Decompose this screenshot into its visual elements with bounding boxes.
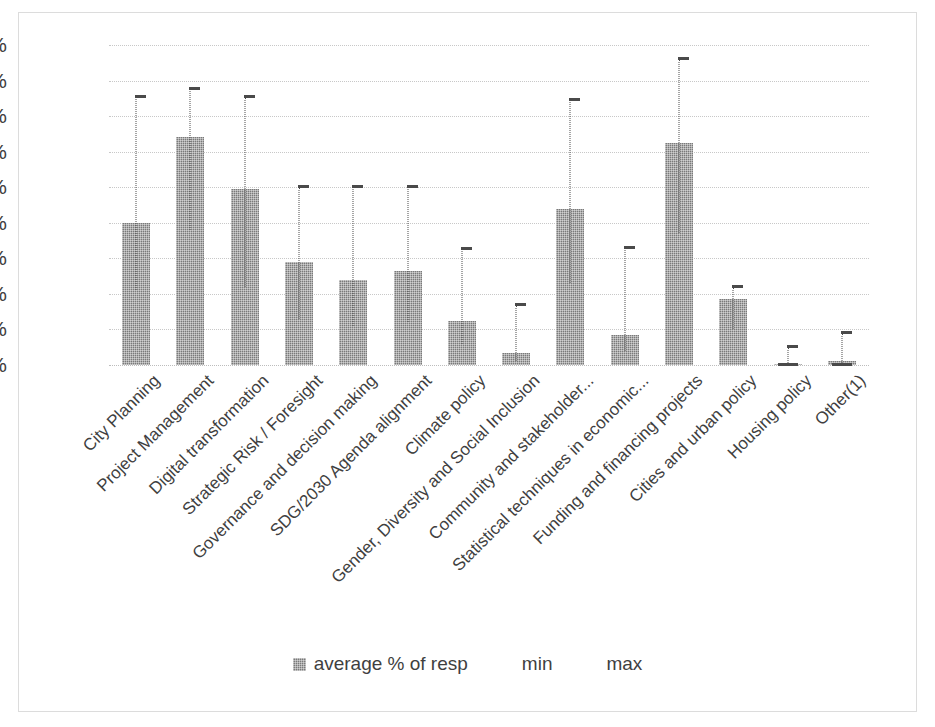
x-axis-category-label-text: Other(1)	[811, 371, 870, 430]
error-bar-cap-max	[841, 331, 852, 334]
error-bar-stem	[244, 97, 245, 287]
bar-slot	[109, 45, 163, 365]
error-bar-cap-max	[135, 95, 146, 98]
error-bar-stem	[841, 333, 842, 365]
error-bar-stem	[353, 187, 354, 326]
error-bar-stem	[190, 89, 191, 229]
legend-item[interactable]: average % of resp	[293, 653, 468, 675]
y-axis-tick-label-left: 0%	[0, 354, 7, 375]
error-bar-cap-max	[624, 246, 635, 249]
bar-slot	[272, 45, 326, 365]
bar-slot	[598, 45, 652, 365]
error-bar-stem	[570, 100, 571, 283]
x-axis-category-label: Statistical techniques in economic...	[448, 371, 653, 576]
legend-item-label: min	[522, 653, 553, 675]
bar-slot	[706, 45, 760, 365]
bar-slot	[760, 45, 814, 365]
legend-item[interactable]: min	[514, 653, 553, 675]
y-axis-tick-label-left: 50%	[0, 176, 7, 197]
bar-slot	[543, 45, 597, 365]
error-bar-stem	[461, 249, 462, 343]
y-axis-tick-label-left: 80%	[0, 70, 7, 91]
error-bar-stem	[733, 287, 734, 330]
error-bar-cap-max	[244, 95, 255, 98]
legend-item-label: max	[606, 653, 642, 675]
bar-slot	[815, 45, 869, 365]
bar-slot	[380, 45, 434, 365]
error-bar-cap-max	[352, 185, 363, 188]
error-bar-cap-max	[407, 185, 418, 188]
error-bar-cap-max	[298, 185, 309, 188]
y-axis-tick-label-left: 30%	[0, 247, 7, 268]
error-bar-cap-max	[732, 285, 743, 288]
error-bar-cap-min	[778, 363, 798, 366]
legend-swatch-icon	[293, 658, 306, 671]
error-bar-stem	[136, 97, 137, 291]
gridline	[109, 365, 869, 366]
error-bar-cap-max	[787, 345, 798, 348]
legend-item[interactable]: max	[598, 653, 642, 675]
y-axis-tick-label-left: 10%	[0, 318, 7, 339]
error-bar-cap-max	[515, 303, 526, 306]
x-axis-category-label: Other(1)	[811, 371, 870, 430]
error-bar-cap-min	[832, 363, 852, 366]
bar-slot	[218, 45, 272, 365]
y-axis-tick-label-left: 70%	[0, 105, 7, 126]
error-bar-stem	[678, 59, 679, 233]
error-bar-stem	[516, 305, 517, 362]
bar-slot	[163, 45, 217, 365]
y-axis-tick-label-left: 60%	[0, 141, 7, 162]
error-bar-cap-max	[461, 247, 472, 250]
y-axis-tick-label-left: 20%	[0, 283, 7, 304]
legend-item-label: average % of resp	[314, 653, 468, 675]
error-bar-stem	[298, 187, 299, 319]
y-axis-tick-label-left: 90%	[0, 34, 7, 55]
error-bar-cap-max	[569, 98, 580, 101]
error-bar-cap-max	[189, 87, 200, 90]
bar-slot	[489, 45, 543, 365]
chart-frame: 90%80%70%60%50%40%30%20%10%0% 90%80%70%6…	[18, 12, 917, 712]
error-bar-stem	[624, 248, 625, 351]
bar-slot	[652, 45, 706, 365]
error-bar-cap-max	[678, 57, 689, 60]
bar-slot	[435, 45, 489, 365]
bar-slot	[326, 45, 380, 365]
x-axis-category-label-text: Statistical techniques in economic...	[448, 371, 653, 576]
plot-area: 90%80%70%60%50%40%30%20%10%0% 90%80%70%6…	[109, 45, 869, 365]
error-bar-stem	[407, 187, 408, 322]
chart-legend: average % of respminmax	[19, 653, 916, 675]
y-axis-tick-label-left: 40%	[0, 212, 7, 233]
